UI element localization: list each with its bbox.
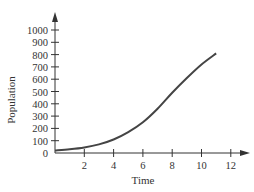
y-tick-label: 1000: [27, 25, 48, 36]
y-tick-label: 800: [32, 50, 48, 61]
y-axis-arrow-icon: [52, 12, 58, 22]
x-tick-label: 4: [111, 160, 117, 171]
x-tick-label: 6: [140, 160, 145, 171]
x-axis-label: Time: [132, 174, 155, 186]
x-tick-label: 12: [226, 160, 237, 171]
x-axis-arrow-icon: [240, 150, 250, 156]
axes: [52, 12, 250, 156]
y-tick-label: 100: [32, 136, 48, 147]
x-tick-label: 10: [196, 160, 207, 171]
y-axis-label: Population: [5, 76, 17, 124]
y-tick-label: 300: [32, 111, 48, 122]
y-tick-label: 200: [32, 123, 48, 134]
y-tick-label: 900: [32, 37, 48, 48]
x-tick-label: 2: [82, 160, 87, 171]
y-axis-ticks: 01002003004005006007008009001000: [27, 25, 59, 159]
x-tick-label: 8: [170, 160, 175, 171]
x-axis-ticks: 24681012: [82, 149, 236, 171]
y-tick-label: 500: [32, 87, 48, 98]
y-tick-label: 400: [32, 99, 48, 110]
population-chart: 01002003004005006007008009001000 2468101…: [0, 0, 254, 192]
population-curve: [55, 53, 216, 150]
y-tick-label: 0: [43, 148, 48, 159]
y-tick-label: 700: [32, 62, 48, 73]
y-tick-label: 600: [32, 74, 48, 85]
